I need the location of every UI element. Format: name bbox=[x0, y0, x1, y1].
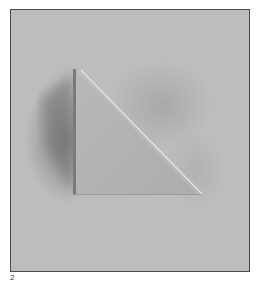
triangle-vertical-edge bbox=[73, 69, 76, 195]
photo-frame bbox=[10, 9, 250, 272]
figure-label: 2 bbox=[10, 273, 14, 282]
cast-shadow bbox=[41, 72, 73, 194]
triangle-photo bbox=[11, 10, 251, 273]
